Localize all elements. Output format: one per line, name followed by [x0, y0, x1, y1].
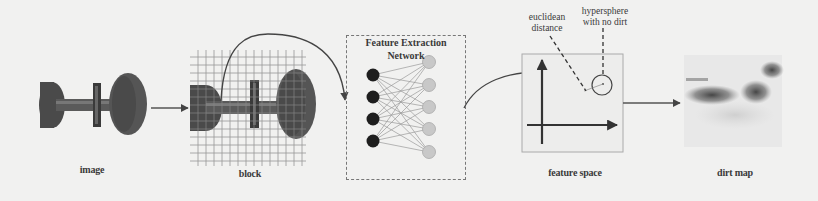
label-block: block [230, 168, 270, 179]
dirt-map-image [684, 55, 784, 147]
label-image: image [72, 164, 112, 175]
block-image [190, 69, 316, 139]
hypersphere-line-1: hypersphere [570, 6, 640, 17]
hypersphere-line-2: with no dirt [570, 17, 640, 28]
label-dirt-map: dirt map [705, 167, 765, 178]
hypersphere-annotation: hypersphere with no dirt [570, 6, 640, 28]
feature-space-box [522, 54, 623, 152]
network-title-line-1: Feature Extraction [351, 36, 461, 49]
label-feature-space: feature space [535, 167, 615, 178]
axle-image [39, 73, 147, 135]
network-title: Feature Extraction Network [351, 36, 461, 62]
network-title-line-2: Network [351, 49, 461, 62]
